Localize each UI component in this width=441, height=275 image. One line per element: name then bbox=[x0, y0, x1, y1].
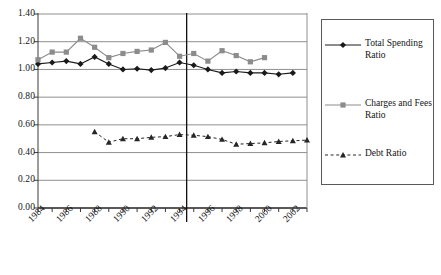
data-point-marker bbox=[340, 42, 346, 48]
x-axis-tick-label: 1988 bbox=[83, 203, 104, 224]
x-axis-tick-label: 2002 bbox=[281, 203, 302, 224]
chart-plot-area: 0.000.200.400.600.801.001.201.40 1984198… bbox=[0, 0, 315, 275]
x-axis-tick-label: 2000 bbox=[253, 203, 274, 224]
legend-marker-icon bbox=[322, 39, 364, 51]
legend-item-label: Charges and Fees Ratio bbox=[364, 98, 435, 121]
x-axis-tick-label: 1984 bbox=[26, 203, 47, 224]
legend-marker-icon bbox=[322, 99, 364, 111]
chart-legend: Total Spending RatioCharges and Fees Rat… bbox=[321, 19, 434, 185]
legend-item-label: Total Spending Ratio bbox=[364, 38, 435, 61]
legend-item: Charges and Fees Ratio bbox=[322, 98, 435, 121]
legend-item: Total Spending Ratio bbox=[322, 38, 435, 61]
legend-marker-icon bbox=[322, 149, 364, 161]
x-axis-tick-label: 1990 bbox=[111, 203, 132, 224]
legend-item-label: Debt Ratio bbox=[364, 148, 406, 160]
x-axis-tick-label: 1996 bbox=[196, 203, 217, 224]
x-axis-tick-labels: 1984198619881990199219941996199820002002 bbox=[0, 0, 315, 275]
x-axis-tick-label: 1992 bbox=[139, 203, 160, 224]
data-point-marker bbox=[340, 152, 346, 157]
x-axis-tick-label: 1994 bbox=[168, 203, 189, 224]
x-axis-tick-label: 1986 bbox=[54, 203, 75, 224]
x-axis-tick-label: 1998 bbox=[224, 203, 245, 224]
chart-figure: 0.000.200.400.600.801.001.201.40 1984198… bbox=[0, 0, 441, 275]
legend-item: Debt Ratio bbox=[322, 148, 435, 161]
data-point-marker bbox=[340, 102, 345, 107]
